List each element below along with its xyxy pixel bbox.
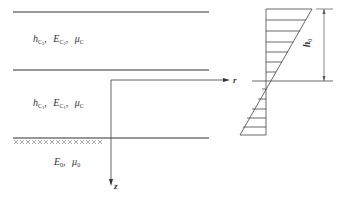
layer-c2-properties: hC2, EC2, μC — [33, 33, 84, 46]
z-axis-arrowhead — [109, 179, 113, 186]
foundation-hatch — [14, 140, 102, 144]
separator: , — [44, 97, 47, 108]
separator: , — [66, 33, 69, 44]
r-axis-label: r — [233, 75, 237, 85]
z-axis-label: z — [114, 181, 118, 191]
foundation-properties: E0, μ0 — [54, 156, 80, 168]
h0-subscript: 0 — [307, 39, 313, 42]
poisson-subscript: 0 — [77, 162, 80, 168]
separator: , — [44, 33, 47, 44]
poisson-subscript: C — [80, 103, 84, 109]
stress-distribution-diagram — [240, 9, 333, 135]
poisson-subscript: C — [80, 39, 84, 45]
h0-dimension — [316, 9, 333, 81]
separator: , — [66, 97, 69, 108]
layer-c1-properties: hC1, EC1, μC — [33, 97, 84, 110]
h0-symbol: h — [301, 42, 312, 48]
r-axis-arrowhead — [223, 78, 230, 82]
separator: , — [63, 156, 66, 167]
h0-dimension-label: h0 — [301, 39, 313, 48]
